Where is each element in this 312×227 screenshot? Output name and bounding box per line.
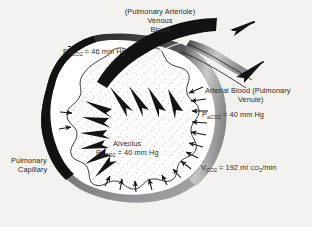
pvco2-equation: = 46 mm Hg <box>85 47 126 56</box>
label-pulmonary-capillary-line1: Pulmonary <box>11 156 47 165</box>
label-arterial-blood-line2: Venule) <box>238 95 263 104</box>
vco2-sub-2: 2 <box>214 167 217 173</box>
pAco2-sub-2: 2 <box>113 152 116 158</box>
label-pvco2: PvCO2 = 46 mm Hg <box>63 47 126 57</box>
label-pulmonary-capillary-line2: Capillary <box>18 165 47 174</box>
paco2-sub-2: 2 <box>218 114 221 120</box>
label-vco2: VCO2 = 192 ml CO2/min <box>201 163 276 173</box>
paco2-equation: = 40 mm Hg <box>223 110 264 119</box>
vco2-equation-2: 2 <box>259 167 262 173</box>
venous-inflow-arrow <box>230 22 254 36</box>
label-blood: Blood <box>112 25 208 34</box>
label-arterial-blood-line1: Arterial Blood (Pulmonary <box>205 86 290 95</box>
pAco2-sub-a: A <box>101 152 105 158</box>
label-pACO2: PACO2 = 40 mm Hg <box>96 148 159 158</box>
overbar <box>68 46 71 47</box>
label-paco2: PaCO2 = 40 mm Hg <box>202 110 264 120</box>
label-venous: Venous <box>112 16 208 25</box>
pvco2-sub-2: 2 <box>80 51 83 57</box>
vco2-equation-co: CO <box>250 165 259 171</box>
vco2-equation-b: /min <box>262 163 276 172</box>
pAco2-equation: = 40 mm Hg <box>118 148 159 157</box>
pvco2-sub-co: CO <box>72 51 80 57</box>
paco2-sub-co: CO <box>210 114 218 120</box>
vco2-sub-co: CO <box>206 167 214 173</box>
label-pulmonary-arteriole: (Pulmonary Arteriole) <box>112 7 208 16</box>
pAco2-sub-co: CO <box>105 152 113 158</box>
label-alveolus: Alveolus <box>113 139 141 148</box>
vco2-equation-a: = 192 ml <box>219 163 250 172</box>
